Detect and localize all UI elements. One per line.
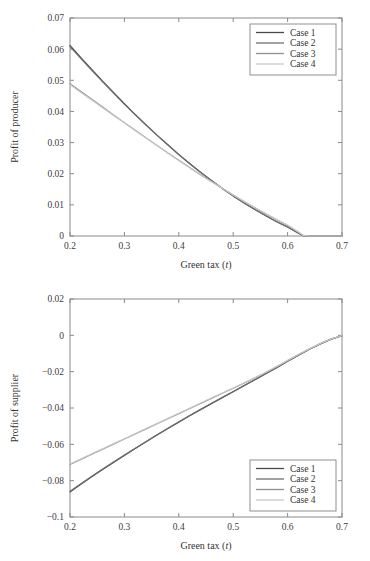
chart-panel-supplier: 0.20.30.40.50.60.7−0.1−0.08−0.06−0.04−0.… (0, 281, 370, 561)
y-tick-label: 0.01 (47, 200, 64, 210)
figure-container: 0.20.30.40.50.60.700.010.020.030.040.050… (0, 0, 370, 561)
legend-label-case-3: Case 3 (290, 49, 316, 59)
x-axis-title: Green tax (t) (180, 259, 231, 271)
y-tick-label: 0.04 (47, 107, 64, 117)
supplier-chart-svg: 0.20.30.40.50.60.7−0.1−0.08−0.06−0.04−0.… (0, 281, 370, 561)
legend-label-case-4: Case 4 (290, 59, 316, 69)
legend: Case 1Case 2Case 3Case 4 (250, 24, 336, 75)
y-tick-label: 0.06 (47, 45, 64, 55)
y-axis-title: Profit of producer (9, 91, 20, 163)
legend-label-case-2: Case 2 (290, 38, 316, 48)
y-axis-title: Profit of supplier (9, 373, 20, 442)
legend-label-case-2: Case 2 (290, 474, 316, 484)
plot-area-producer: 0.20.30.40.50.60.700.010.020.030.040.050… (0, 0, 370, 280)
x-tick-label: 0.6 (282, 241, 294, 251)
y-tick-label: −0.06 (42, 440, 64, 450)
y-tick-label: −0.08 (42, 476, 64, 486)
y-tick-label: −0.04 (42, 403, 64, 413)
x-tick-label: 0.2 (64, 241, 76, 251)
legend-label-case-1: Case 1 (290, 28, 316, 38)
x-tick-label: 0.4 (173, 241, 185, 251)
y-tick-label: 0 (59, 231, 64, 241)
x-tick-label: 0.6 (282, 522, 294, 532)
y-tick-label: −0.1 (47, 512, 64, 522)
y-tick-label: 0.07 (47, 13, 64, 23)
chart-panel-producer: 0.20.30.40.50.60.700.010.020.030.040.050… (0, 0, 370, 280)
x-tick-label: 0.7 (336, 241, 348, 251)
x-tick-label: 0.3 (118, 522, 130, 532)
legend: Case 1Case 2Case 3Case 4 (250, 460, 336, 511)
y-tick-label: 0.02 (47, 169, 64, 179)
x-tick-label: 0.5 (227, 522, 239, 532)
y-tick-label: 0.02 (47, 294, 64, 304)
legend-label-case-1: Case 1 (290, 464, 316, 474)
x-tick-label: 0.3 (118, 241, 130, 251)
producer-chart-svg: 0.20.30.40.50.60.700.010.020.030.040.050… (0, 0, 370, 280)
y-tick-label: 0.05 (47, 76, 64, 86)
legend-label-case-3: Case 3 (290, 485, 316, 495)
y-tick-label: 0 (59, 331, 64, 341)
x-axis-title: Green tax (t) (180, 540, 231, 552)
y-tick-label: −0.02 (42, 367, 64, 377)
x-tick-label: 0.2 (64, 522, 76, 532)
legend-label-case-4: Case 4 (290, 495, 316, 505)
x-tick-label: 0.4 (173, 522, 185, 532)
x-tick-label: 0.5 (227, 241, 239, 251)
y-tick-label: 0.03 (47, 138, 64, 148)
x-tick-label: 0.7 (336, 522, 348, 532)
plot-area-supplier: 0.20.30.40.50.60.7−0.1−0.08−0.06−0.04−0.… (0, 281, 370, 561)
